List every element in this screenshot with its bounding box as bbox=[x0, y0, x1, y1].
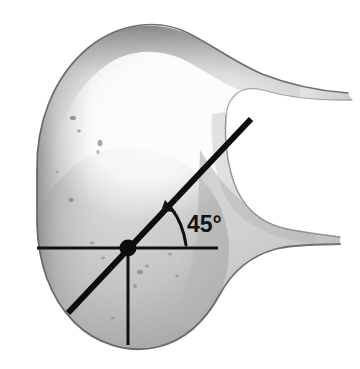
bone-specimen bbox=[0, 0, 360, 369]
figure-canvas: 45° bbox=[0, 0, 360, 369]
angle-label: 45° bbox=[187, 211, 222, 237]
anatomical-figure: 45° bbox=[0, 0, 360, 369]
vertex-point bbox=[120, 240, 137, 257]
bone-texture-grain bbox=[0, 0, 360, 369]
